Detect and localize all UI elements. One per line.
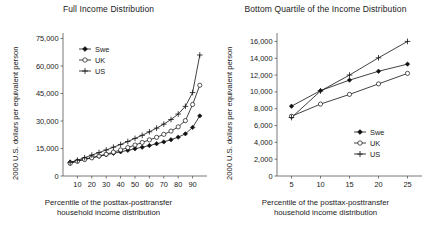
x-axis-label-left-line1: Percentile of the posttax-posttransfer (0, 198, 217, 208)
svg-text:20: 20 (88, 180, 96, 189)
svg-text:50: 50 (131, 180, 139, 189)
svg-text:30: 30 (102, 180, 110, 189)
chart-panel-bottom-quartile: Bottom Quartile of the Income Distributi… (217, 0, 434, 234)
svg-text:60: 60 (145, 180, 153, 189)
svg-text:8,000: 8,000 (254, 104, 273, 113)
svg-text:2,000: 2,000 (254, 155, 273, 164)
svg-text:12,000: 12,000 (250, 71, 273, 80)
svg-text:UK: UK (370, 139, 380, 148)
x-axis-label-right-line2: household income distribution (217, 208, 434, 218)
x-axis-label-left: Percentile of the posttax-posttransfer h… (0, 198, 217, 217)
svg-text:Swe: Swe (95, 45, 109, 54)
svg-text:60,000: 60,000 (36, 62, 59, 71)
svg-text:45,000: 45,000 (36, 89, 59, 98)
svg-text:15,000: 15,000 (36, 144, 59, 153)
svg-text:16,000: 16,000 (250, 37, 273, 46)
svg-text:Swe: Swe (370, 128, 384, 137)
svg-text:25: 25 (403, 180, 411, 189)
chart-panel-full-income-distribution: Full Income Distribution 2000 U.S. dolla… (0, 0, 217, 234)
svg-text:10: 10 (316, 180, 324, 189)
svg-text:10: 10 (73, 180, 81, 189)
x-axis-label-left-line2: household income distribution (0, 208, 217, 218)
svg-text:0: 0 (54, 172, 58, 181)
svg-text:6,000: 6,000 (254, 121, 273, 130)
x-axis-label-right-line1: Percentile of the posttax-posttransfer (217, 198, 434, 208)
svg-text:15: 15 (345, 180, 353, 189)
svg-text:5: 5 (289, 180, 293, 189)
svg-text:4,000: 4,000 (254, 138, 273, 147)
svg-text:30,000: 30,000 (36, 117, 59, 126)
svg-text:US: US (95, 67, 105, 76)
figure-root: Full Income Distribution 2000 U.S. dolla… (0, 0, 434, 234)
svg-text:20: 20 (374, 180, 382, 189)
svg-text:0: 0 (268, 172, 272, 181)
x-axis-label-right: Percentile of the posttax-posttransfer h… (217, 198, 434, 217)
svg-text:14,000: 14,000 (250, 54, 273, 63)
svg-text:90: 90 (188, 180, 196, 189)
svg-text:UK: UK (95, 56, 105, 65)
svg-text:75,000: 75,000 (36, 34, 59, 43)
svg-text:70: 70 (160, 180, 168, 189)
svg-text:80: 80 (174, 180, 182, 189)
svg-text:10,000: 10,000 (250, 87, 273, 96)
svg-text:40: 40 (116, 180, 124, 189)
svg-text:US: US (370, 150, 380, 159)
